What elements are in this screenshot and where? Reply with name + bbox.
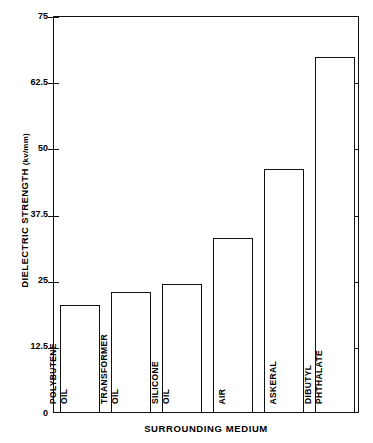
x-axis-title: SURROUNDING MEDIUM	[53, 423, 359, 434]
bar-label-line2: OIL	[161, 361, 172, 404]
bar-label-line2: OIL	[59, 343, 70, 404]
bar-label: SILICONEOIL	[163, 403, 201, 404]
y-axis-tick-labels: 012.52537.55062.575	[0, 0, 48, 443]
bar-label: POLYBUTENEOIL	[61, 403, 99, 404]
bar-label: TRANSFORMEROIL	[112, 403, 150, 404]
bar-label-line2: OIL	[110, 334, 121, 404]
bar-label: DIBUTYLPHTHALATE	[316, 403, 354, 404]
y-tick-label: 37.5	[4, 210, 48, 219]
bar-label-line1: SILICONE	[150, 361, 161, 404]
bar: SILICONEOIL	[162, 284, 202, 412]
y-tick-label: 50	[4, 144, 48, 153]
bar-label-line1: TRANSFORMER	[99, 334, 110, 404]
bar: ASKERAL	[264, 169, 304, 412]
bar: TRANSFORMEROIL	[111, 292, 151, 412]
bar: AIR	[213, 238, 253, 412]
bar-label-line1: ASKERAL	[268, 360, 279, 404]
bar-label: AIR	[214, 403, 252, 404]
dielectric-strength-bar-chart: DIELECTRIC STRENGTH (kv/mm) 012.52537.55…	[0, 0, 373, 443]
bar: POLYBUTENEOIL	[60, 305, 100, 412]
bar: DIBUTYLPHTHALATE	[315, 57, 355, 412]
bars-layer: POLYBUTENEOILTRANSFORMEROILSILICONEOILAI…	[54, 17, 358, 412]
bar-label-line1: AIR	[217, 388, 228, 404]
bar-label-line1: DIBUTYL	[303, 350, 314, 404]
bar-label-line1: POLYBUTENE	[48, 343, 59, 404]
y-tick-label: 12.5	[4, 342, 48, 351]
bar-label: ASKERAL	[265, 403, 303, 404]
y-tick-label: 62.5	[4, 78, 48, 87]
plot-area: POLYBUTENEOILTRANSFORMEROILSILICONEOILAI…	[53, 16, 359, 413]
y-tick-label: 0	[4, 409, 48, 418]
y-tick-label: 75	[4, 12, 48, 21]
y-tick-label: 25	[4, 276, 48, 285]
bar-label-line2: PHTHALATE	[314, 350, 325, 404]
